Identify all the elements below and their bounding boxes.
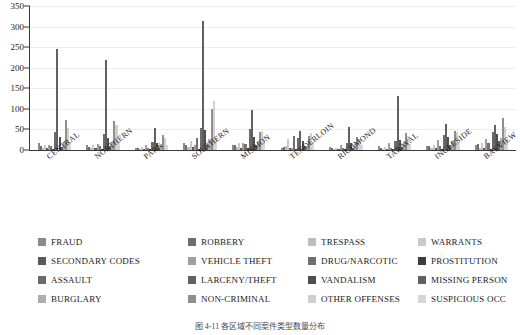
y-tick-label: 300 [11,22,25,31]
legend-label: NON-CRIMINAL [201,294,270,304]
legend-item[interactable]: VANDALISM [308,275,418,285]
legend-label: DRUG/NARCOTIC [321,256,398,266]
legend-swatch-icon [188,257,196,265]
x-axis-labels: CENTRALNORTHERNPARKSOUTHERNMISSIONTENDER… [0,152,520,208]
legend-swatch-icon [188,276,196,284]
legend-item[interactable]: VEHICLE THEFT [188,256,308,266]
legend-item[interactable]: MISSING PERSON [418,275,520,285]
legend-label: PROSTITUTION [431,256,498,266]
legend-swatch-icon [418,238,426,246]
legend-swatch-icon [418,257,426,265]
legend-label: MISSING PERSON [431,275,508,285]
legend-swatch-icon [418,276,426,284]
legend-swatch-icon [308,257,316,265]
legend-swatch-icon [308,276,316,284]
legend-label: VANDALISM [321,275,376,285]
bar-group [79,6,128,150]
bar-group [273,6,322,150]
legend-label: VEHICLE THEFT [201,256,272,266]
y-tick-label: 250 [11,43,25,52]
legend-item[interactable]: SECONDARY CODES [38,256,188,266]
legend-item[interactable]: SUSPICIOUS OCC [418,294,520,304]
legend-swatch-icon [308,295,316,303]
y-tick-label: 100 [11,104,25,113]
y-tick-label: 350 [11,2,25,11]
legend-item[interactable]: LARCENY/THEFT [188,275,308,285]
y-axis: 050100150200250300350 [0,0,26,150]
y-tick-label: 200 [11,63,25,72]
bar-group [30,6,79,150]
legend-label: BURGLARY [51,294,102,304]
bar-group [127,6,176,150]
legend-label: SUSPICIOUS OCC [431,294,506,304]
legend-label: OTHER OFFENSES [321,294,400,304]
legend-item[interactable]: DRUG/NARCOTIC [308,256,418,266]
legend-label: LARCENY/THEFT [201,275,277,285]
bar-group [176,6,225,150]
bar [361,145,363,150]
bar-group [467,6,516,150]
bar-group [224,6,273,150]
legend-swatch-icon [38,295,46,303]
legend-item[interactable]: BURGLARY [38,294,188,304]
legend-swatch-icon [418,295,426,303]
figure-caption: 图 4-11 各区域不同案件类型数量分布 [0,320,520,331]
legend-item[interactable]: ROBBERY [188,237,308,247]
legend-swatch-icon [308,238,316,246]
bars-area [30,6,516,150]
chart-root: 050100150200250300350 CENTRALNORTHERNPAR… [0,0,520,335]
legend-swatch-icon [188,238,196,246]
y-tick-label: 150 [11,84,25,93]
bar-group [419,6,468,150]
legend-swatch-icon [38,257,46,265]
legend-swatch-icon [38,238,46,246]
bar-group [370,6,419,150]
legend-swatch-icon [38,276,46,284]
legend-item[interactable]: FRAUD [38,237,188,247]
legend-label: FRAUD [51,237,83,247]
legend-label: SECONDARY CODES [51,256,140,266]
legend-label: WARRANTS [431,237,482,247]
legend-item[interactable]: OTHER OFFENSES [308,294,418,304]
legend-item[interactable]: PROSTITUTION [418,256,520,266]
bar [166,145,168,150]
legend-item[interactable]: WARRANTS [418,237,520,247]
legend-label: ROBBERY [201,237,244,247]
legend-label: TRESPASS [321,237,365,247]
legend-item[interactable]: NON-CRIMINAL [188,294,308,304]
legend-label: ASSAULT [51,275,92,285]
legend-item[interactable]: TRESPASS [308,237,418,247]
bar [56,49,58,150]
legend-item[interactable]: ASSAULT [38,275,188,285]
legend: FRAUDROBBERYTRESPASSWARRANTSSECONDARY CO… [38,232,508,308]
bar [105,60,107,150]
y-tick-label: 50 [15,125,24,134]
legend-swatch-icon [188,295,196,303]
